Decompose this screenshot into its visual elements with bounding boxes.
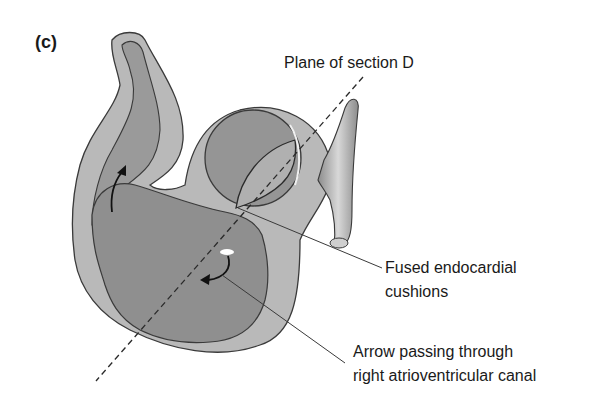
label-arrow-line1: Arrow passing through	[353, 342, 513, 361]
label-cushions-line2: cushions	[385, 282, 448, 301]
sinus-venosus-vessel	[318, 99, 358, 245]
panel-label: (c)	[35, 33, 57, 52]
label-cushions-line1: Fused endocardial	[385, 258, 517, 277]
av-canal-highlight	[220, 249, 234, 255]
label-plane-of-section: Plane of section D	[284, 53, 414, 72]
vessel-opening	[330, 238, 348, 248]
label-arrow-line2: right atrioventricular canal	[353, 366, 536, 385]
